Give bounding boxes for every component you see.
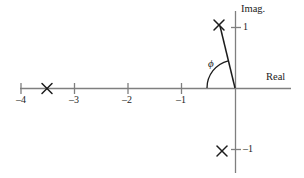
pole-radius-line: [220, 26, 235, 88]
real-tick-label--1: –1: [176, 95, 186, 105]
pole-marker-upper: [214, 20, 224, 30]
imag-tick-label--1: –1: [243, 144, 253, 154]
real-tick-label--4: –4: [16, 95, 26, 105]
imag-tick-label-1: 1: [243, 22, 248, 32]
phi-angle-label: ϕ: [208, 58, 214, 69]
pole-marker-lower: [217, 146, 227, 156]
plot-canvas: [0, 0, 304, 178]
real-tick-label--3: –3: [69, 95, 79, 105]
imag-axis-label: Imag.: [241, 4, 265, 15]
real-tick-label--2: –2: [122, 95, 132, 105]
real-axis-label: Real: [266, 72, 285, 83]
complex-plane-pole-zero-plot: Imag. Real –4 –3 –2 –1 1 –1 ϕ: [0, 0, 304, 178]
